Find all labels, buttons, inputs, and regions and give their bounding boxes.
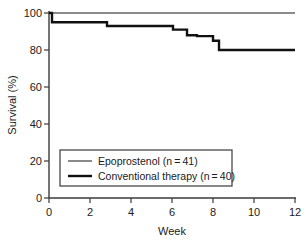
x-tick-label: 12 <box>289 206 301 218</box>
y-tick-label: 0 <box>36 192 42 204</box>
y-tick-marks <box>44 13 49 198</box>
legend-label-conventional-therapy: Conventional therapy (n = 40) <box>98 170 235 182</box>
y-tick-labels: 100 80 60 40 20 0 <box>24 7 42 204</box>
legend-label-epoprostenol: Epoprostenol (n = 41) <box>98 155 198 167</box>
series-line-conventional-therapy <box>49 13 295 50</box>
x-tick-label: 10 <box>248 206 260 218</box>
data-series-group <box>49 13 295 50</box>
legend: Epoprostenol (n = 41) Conventional thera… <box>60 150 235 186</box>
survival-curve-figure: 100 80 60 40 20 0 <box>0 0 306 240</box>
x-tick-label: 0 <box>46 206 52 218</box>
y-tick-label: 80 <box>30 44 42 56</box>
y-axis-title: Survival (%) <box>6 75 18 134</box>
x-tick-label: 8 <box>210 206 216 218</box>
x-tick-label: 4 <box>128 206 134 218</box>
y-tick-label: 100 <box>24 7 42 19</box>
y-tick-label: 20 <box>30 155 42 167</box>
x-tick-labels: 0 2 4 6 8 10 12 <box>46 206 301 218</box>
x-axis-title: Week <box>158 225 186 237</box>
x-tick-marks <box>49 198 295 203</box>
y-tick-label: 60 <box>30 81 42 93</box>
y-tick-label: 40 <box>30 118 42 130</box>
x-tick-label: 2 <box>87 206 93 218</box>
chart-canvas: 100 80 60 40 20 0 <box>0 0 306 240</box>
x-tick-label: 6 <box>169 206 175 218</box>
